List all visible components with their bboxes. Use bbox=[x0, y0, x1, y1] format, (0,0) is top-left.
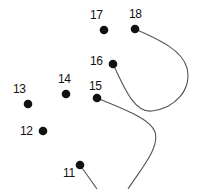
dot-12 bbox=[39, 127, 48, 136]
dot-label-15: 15 bbox=[89, 80, 102, 92]
connector-15-down bbox=[97, 98, 156, 189]
dot-label-16: 16 bbox=[90, 55, 103, 67]
dot-18 bbox=[131, 25, 140, 34]
dot-label-11: 11 bbox=[63, 167, 75, 179]
dot-label-14: 14 bbox=[58, 73, 71, 85]
dot-label-17: 17 bbox=[90, 9, 103, 21]
dot-11 bbox=[76, 161, 85, 170]
puzzle-lines bbox=[0, 0, 200, 189]
dot-17 bbox=[100, 26, 109, 35]
dot-puzzle: 1112131415161718 bbox=[0, 0, 200, 189]
dot-13 bbox=[24, 100, 33, 109]
connector-11-down bbox=[80, 165, 97, 189]
dot-label-12: 12 bbox=[20, 125, 33, 137]
connector-18-16 bbox=[113, 29, 188, 111]
dot-15 bbox=[93, 94, 102, 103]
dot-16 bbox=[109, 60, 118, 69]
dot-14 bbox=[62, 90, 71, 99]
dot-label-18: 18 bbox=[129, 8, 142, 20]
dot-label-13: 13 bbox=[13, 83, 26, 95]
